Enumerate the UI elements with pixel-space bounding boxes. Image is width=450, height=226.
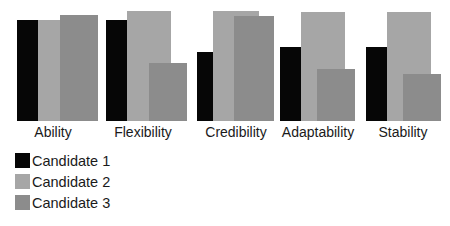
bar-credibility-candidate-1 (197, 52, 213, 121)
legend-item-candidate-1: Candidate 1 (15, 150, 110, 171)
category-label-flexibility: Flexibility (98, 124, 188, 140)
legend-item-candidate-3: Candidate 3 (15, 192, 110, 213)
bar-adaptability-candidate-3 (317, 69, 355, 121)
bar-stability-candidate-1 (366, 47, 387, 121)
category-label-adaptability: Adaptability (273, 124, 363, 140)
legend-swatch-candidate-2 (15, 174, 30, 189)
category-label-ability: Ability (8, 124, 98, 140)
legend: Candidate 1 Candidate 2 Candidate 3 (15, 150, 110, 213)
legend-swatch-candidate-3 (15, 195, 30, 210)
bar-flexibility-candidate-1 (106, 20, 127, 121)
legend-item-candidate-2: Candidate 2 (15, 171, 110, 192)
legend-label: Candidate 2 (32, 174, 110, 190)
bar-adaptability-candidate-1 (280, 47, 301, 121)
bar-ability-candidate-3 (60, 15, 98, 121)
legend-label: Candidate 1 (32, 153, 110, 169)
bar-ability-candidate-2 (38, 20, 60, 121)
category-label-credibility: Credibility (191, 124, 281, 140)
bar-stability-candidate-3 (403, 74, 441, 121)
legend-label: Candidate 3 (32, 195, 110, 211)
bar-credibility-candidate-3 (234, 16, 274, 121)
bar-ability-candidate-1 (17, 20, 38, 121)
bar-flexibility-candidate-3 (149, 63, 187, 121)
legend-swatch-candidate-1 (15, 153, 30, 168)
category-label-stability: Stability (358, 124, 448, 140)
